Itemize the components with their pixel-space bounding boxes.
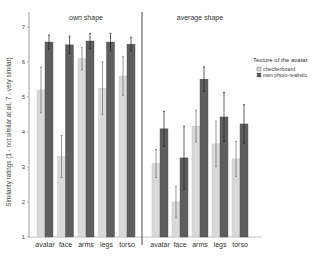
bar-avatar-own-photo-realistic (45, 42, 53, 237)
legend: Texture of the avatar checkerboardown ph… (253, 57, 308, 78)
y-tick-label: 7 (22, 24, 26, 30)
legend-item-label: own photo-realistic (263, 72, 308, 78)
x-category-label: face (173, 241, 186, 248)
panel-own-shape: own shapeavatarfacearmslegstorso (29, 14, 142, 249)
legend-swatch (257, 67, 261, 71)
bar-torso-checkerboard (119, 76, 127, 237)
bar-arms-checkerboard (192, 126, 200, 237)
panel-average-shape: average shapeavatarfacearmslegstorso (142, 14, 262, 249)
legend-swatch (257, 73, 261, 77)
x-category-label: arms (192, 241, 208, 248)
y-tick-label: 3 (22, 164, 26, 170)
bar-arms-own-photo-realistic (86, 41, 94, 237)
x-category-label: avatar (35, 241, 55, 248)
panel-title: average shape (177, 14, 223, 22)
chart-panels: own shapeavatarfacearmslegstorsoaverage … (29, 12, 262, 249)
bar-chart: 1234567 Similarity ratings (1 - not simi… (0, 0, 317, 259)
panel-title: own shape (69, 14, 103, 22)
y-tick-label: 4 (22, 129, 26, 135)
bar-legs-own-photo-realistic (107, 42, 115, 237)
bar-arms-checkerboard (78, 59, 86, 238)
x-category-label: avatar (150, 241, 170, 248)
y-tick-label: 5 (22, 94, 26, 100)
bar-face-own-photo-realistic (66, 45, 74, 237)
x-category-label: torso (232, 241, 248, 248)
y-axis: 1234567 (22, 12, 29, 240)
x-category-label: legs (100, 241, 113, 249)
x-category-label: face (59, 241, 72, 248)
legend-title: Texture of the avatar (253, 57, 308, 63)
x-category-label: torso (119, 241, 135, 248)
y-tick-label: 1 (22, 234, 26, 240)
y-tick-label: 6 (22, 59, 26, 65)
bar-arms-own-photo-realistic (200, 79, 208, 237)
y-axis-label: Similarity ratings (1 - not similar at a… (5, 57, 13, 206)
x-category-label: legs (214, 241, 227, 249)
bar-torso-own-photo-realistic (127, 44, 135, 237)
y-tick-label: 2 (22, 199, 26, 205)
x-category-label: arms (78, 241, 94, 248)
